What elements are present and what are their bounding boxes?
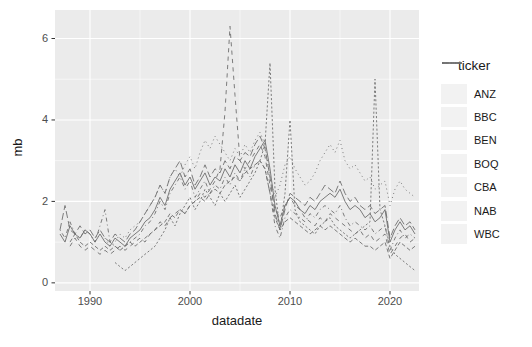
legend-key-solid-line-icon [441, 84, 467, 104]
legend: ticker ANZBBCBENBOQCBANABWBC [441, 58, 531, 246]
x-axis-title: datadate [55, 313, 419, 328]
y-tick-label: 0 [42, 276, 48, 288]
legend-item-CBA: CBA [441, 176, 531, 199]
legend-item-ANZ: ANZ [441, 82, 531, 105]
legend-label: NAB [474, 205, 497, 217]
y-tick-label: 2 [42, 195, 48, 207]
legend-label: CBA [474, 181, 497, 193]
panel-background [55, 10, 419, 291]
legend-items: ANZBBCBENBOQCBANABWBC [441, 82, 531, 246]
legend-item-BBC: BBC [441, 105, 531, 128]
legend-item-BOQ: BOQ [441, 152, 531, 175]
legend-label: ANZ [474, 88, 496, 100]
legend-item-WBC: WBC [441, 222, 531, 245]
legend-key-13-line-icon [441, 177, 467, 197]
legend-label: WBC [474, 228, 500, 240]
legend-key-44-line-icon [441, 154, 467, 174]
legend-title: ticker [458, 58, 531, 73]
legend-key-73-line-icon [441, 224, 467, 244]
x-tick-label: 2020 [378, 295, 402, 307]
x-tick-label: 2000 [178, 295, 202, 307]
legend-item-NAB: NAB [441, 199, 531, 222]
legend-label: BOQ [474, 158, 498, 170]
x-tick-label: 1990 [78, 295, 102, 307]
y-tick-label: 4 [42, 113, 48, 125]
legend-key-22-line-icon [441, 107, 467, 127]
legend-label: BBC [474, 111, 497, 123]
legend-label: BEN [474, 134, 497, 146]
chart-figure: 19902000201020200246 mb datadate ticker … [0, 0, 532, 347]
x-tick-label: 2010 [278, 295, 302, 307]
legend-item-BEN: BEN [441, 129, 531, 152]
legend-key-1343-line-icon [441, 201, 467, 221]
y-tick-label: 6 [42, 32, 48, 44]
legend-key-42-line-icon [441, 130, 467, 150]
y-axis-title: mb [10, 138, 25, 156]
